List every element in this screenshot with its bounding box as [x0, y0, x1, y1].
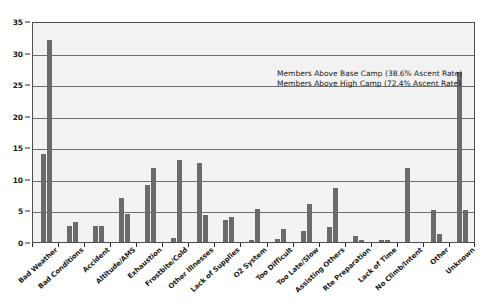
- chart-annotation: Members Above Base Camp (38.6% Ascent Ra…: [277, 69, 462, 89]
- y-tick-label: 20: [13, 112, 23, 121]
- y-tick-mark: [25, 211, 30, 212]
- bar: [67, 226, 72, 242]
- bar-group: [294, 23, 320, 242]
- bar: [281, 229, 286, 242]
- bar: [151, 168, 156, 242]
- bar: [145, 185, 150, 242]
- bar: [41, 154, 46, 242]
- bar-group: [33, 23, 59, 242]
- bar: [359, 240, 364, 242]
- bar: [223, 220, 228, 242]
- bar: [385, 240, 390, 242]
- x-axis-label: Rte Preparation: [321, 246, 372, 293]
- bar-group: [215, 23, 241, 242]
- y-tick-mark: [25, 148, 30, 149]
- bar-group: [398, 23, 424, 242]
- bar: [93, 226, 98, 242]
- bar-group: [320, 23, 346, 242]
- bar: [301, 231, 306, 242]
- bars-layer: [33, 23, 474, 242]
- y-tick-label: 35: [13, 18, 23, 27]
- annotation-line-2: Members Above High Camp (72.4% Ascent Ra…: [277, 79, 462, 89]
- bar: [463, 210, 468, 242]
- bar: [249, 240, 254, 242]
- bar: [99, 226, 104, 242]
- bar: [119, 198, 124, 242]
- bar-group: [111, 23, 137, 242]
- y-tick-label: 0: [18, 239, 23, 248]
- y-tick-mark: [25, 85, 30, 86]
- y-tick-mark: [25, 22, 30, 23]
- bar: [379, 240, 384, 242]
- y-tick-mark: [25, 243, 30, 244]
- bar-group: [59, 23, 85, 242]
- bar: [431, 210, 436, 242]
- bar: [437, 234, 442, 242]
- bar: [353, 236, 358, 242]
- y-tick-mark: [25, 179, 30, 180]
- bar: [177, 160, 182, 242]
- y-tick-label: 5: [18, 207, 23, 216]
- x-axis-label: No Climb/Intent: [374, 246, 424, 292]
- bar: [229, 217, 234, 242]
- bar: [171, 238, 176, 242]
- bar: [275, 239, 280, 242]
- y-tick-label: 25: [13, 81, 23, 90]
- bar-group: [268, 23, 294, 242]
- bar: [327, 227, 332, 242]
- bar-group: [372, 23, 398, 242]
- y-tick-label: 10: [13, 175, 23, 184]
- bar: [125, 214, 130, 242]
- bar-chart: 05101520253035 Members Above Base Camp (…: [0, 0, 480, 307]
- bar-group: [137, 23, 163, 242]
- bar-group: [189, 23, 215, 242]
- bar: [197, 163, 202, 242]
- bar-group: [424, 23, 450, 242]
- bar: [333, 188, 338, 242]
- annotation-line-1: Members Above Base Camp (38.6% Ascent Ra…: [277, 69, 462, 79]
- y-axis: 05101520253035: [0, 22, 30, 243]
- y-tick-mark: [25, 53, 30, 54]
- y-tick-label: 30: [13, 49, 23, 58]
- x-axis-labels: Bad WeatherBad ConditionsAccidentAltitud…: [32, 246, 475, 307]
- bar: [405, 168, 410, 242]
- y-tick-mark: [25, 116, 30, 117]
- bar: [203, 215, 208, 242]
- bar: [457, 72, 462, 242]
- bar-group: [450, 23, 476, 242]
- bar: [255, 209, 260, 242]
- bar-group: [85, 23, 111, 242]
- x-axis-label: Bad Conditions: [37, 246, 86, 291]
- bar-group: [346, 23, 372, 242]
- bar: [73, 222, 78, 242]
- bar: [47, 40, 52, 242]
- bar-group: [241, 23, 267, 242]
- plot-area: Members Above Base Camp (38.6% Ascent Ra…: [32, 22, 475, 243]
- y-tick-label: 15: [13, 144, 23, 153]
- x-axis-label: Lack of Supplies: [190, 246, 242, 294]
- x-axis-label: Other: [429, 246, 451, 267]
- bar: [307, 204, 312, 242]
- bar-group: [163, 23, 189, 242]
